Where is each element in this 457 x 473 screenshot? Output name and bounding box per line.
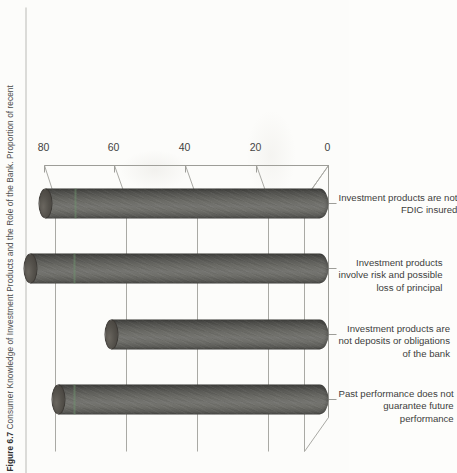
bar-1-body [58,384,328,414]
axis-tick-label-20: 20 [244,140,266,152]
category-label-3-line-1: Investment products [338,256,442,268]
bar-3-highlight-band [73,253,75,283]
bar-cylinder-3 [23,253,328,283]
axis-tick-label-80: 80 [32,140,54,152]
category-label-4-line-2: FDIC insured [338,203,457,215]
bar-4-cap [38,188,52,218]
figure-caption: Figure 6.7 Consumer Knowledge of Investm… [4,9,24,471]
category-label-3-line-3: loss of principal [338,281,442,293]
category-label-1-line-2: guarantee future [338,399,453,411]
category-label-4: Investment products are not FDIC insured [338,191,457,216]
figure-number: Figure 6.7 [4,431,14,471]
bar-2-body [111,319,328,349]
category-label-4-line-1: Investment products are not [338,191,457,203]
bar-cylinder-1 [51,384,328,414]
axis-tick-label-0: 0 [316,140,338,152]
category-label-2-line-2: not deposits or obligations [338,334,449,346]
bar-4-body [45,188,328,218]
category-label-2-line-1: Investment products are [338,322,449,334]
bar-1-cap [51,384,65,414]
bar-2-cap [104,319,118,349]
axis-tick-label-60: 60 [102,140,124,152]
bar-4-highlight-band [74,188,76,218]
category-label-3-line-2: involve risk and possible [338,268,442,280]
axis-tick-label-40: 40 [173,140,195,152]
category-label-1-line-1: Past performance does not [338,387,453,399]
category-label-1: Past performance does not guarantee futu… [338,387,453,424]
chart-plot-area: 0 20 40 60 80 Past performance does not … [36,0,342,471]
category-label-3: Investment products involve risk and pos… [338,256,442,293]
caption-divider [25,7,26,473]
bar-cylinder-2 [104,319,328,349]
bar-1-highlight-band [73,384,75,414]
category-label-2: Investment products are not deposits or … [338,322,449,359]
figure-caption-text: Consumer Knowledge of Investment Product… [4,85,14,429]
category-label-1-line-3: performance [338,412,453,424]
bar-cylinder-4 [38,188,328,218]
bar-3-cap [23,253,37,283]
category-label-2-line-3: of the bank [338,347,449,359]
